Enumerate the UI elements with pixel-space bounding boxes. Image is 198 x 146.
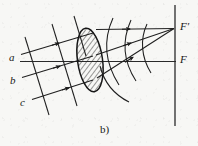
- diagram-canvas: [0, 0, 198, 146]
- figure-caption: b): [100, 124, 109, 135]
- emergent-wavefront-4: [100, 66, 129, 102]
- label-focus-image: F′: [180, 21, 189, 32]
- label-ray-b: b: [10, 75, 16, 86]
- label-focus-axis: F: [180, 54, 187, 65]
- optics-figure: a b c F′ F b): [0, 0, 198, 146]
- label-ray-c: c: [20, 97, 25, 108]
- emergent-ray-a: [96, 29, 174, 30]
- lens-ellipse: [73, 27, 107, 94]
- emergent-wavefront-1: [107, 18, 119, 85]
- label-ray-a: a: [9, 52, 15, 63]
- emergent-ray-arrowheads: [122, 29, 133, 62]
- incident-wavefronts: [25, 16, 86, 115]
- emergent-ray-c: [97, 29, 174, 79]
